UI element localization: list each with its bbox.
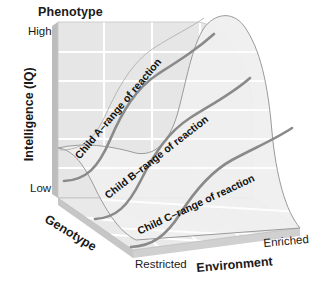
- x-axis-tick-restricted: Restricted: [135, 259, 187, 271]
- y-axis-tick-low: Low: [30, 183, 51, 195]
- range-of-reaction-figure: Phenotype High Low Intelligence (IQ) Gen…: [0, 0, 323, 285]
- y-axis-label: Intelligence (IQ): [23, 59, 36, 169]
- back-wall-left-edge: [52, 22, 58, 198]
- y-axis-tick-high: High: [28, 26, 52, 38]
- phenotype-title: Phenotype: [38, 6, 103, 19]
